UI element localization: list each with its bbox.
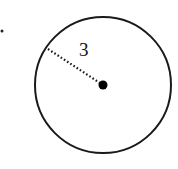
radius-label: 3 bbox=[79, 39, 89, 60]
center-point bbox=[99, 81, 108, 90]
radius-dotted-line bbox=[48, 49, 103, 85]
bullet-marker bbox=[1, 30, 4, 33]
circle-diagram: 3 bbox=[0, 0, 178, 169]
